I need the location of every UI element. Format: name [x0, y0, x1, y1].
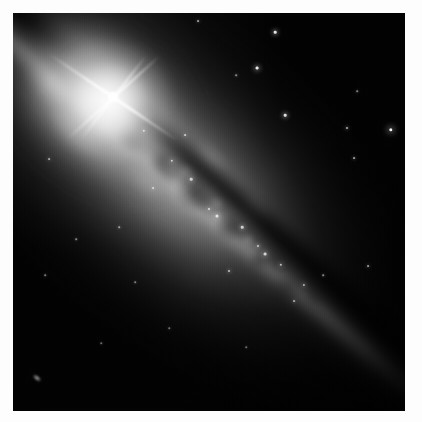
field-star-4 [346, 127, 348, 129]
field-star-13 [75, 238, 77, 240]
image-plate [13, 13, 405, 411]
field-star-2 [256, 67, 259, 70]
field-star-7 [356, 90, 358, 92]
field-star-23 [168, 327, 170, 329]
field-star-11 [118, 226, 120, 228]
field-star-9 [235, 74, 237, 76]
field-star-12 [48, 158, 50, 160]
field-star-25 [245, 346, 247, 348]
astronomy-figure [0, 0, 422, 422]
background-galaxy [32, 374, 42, 383]
field-star-16 [367, 265, 369, 267]
field-star-3 [284, 114, 287, 117]
field-star-1 [274, 31, 277, 34]
field-star-6 [353, 157, 355, 159]
field-star-15 [134, 281, 136, 283]
field-star-5 [389, 128, 392, 131]
field-star-14 [44, 274, 46, 276]
field-star-8 [197, 20, 199, 22]
field-star-24 [100, 342, 102, 344]
